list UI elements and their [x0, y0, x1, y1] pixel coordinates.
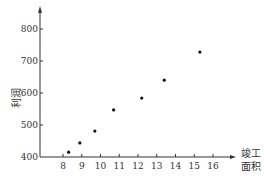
x-tick-label: 11: [114, 161, 125, 171]
y-tick-label: 700: [21, 56, 38, 66]
y-tick-label: 800: [21, 24, 38, 34]
axes: [38, 6, 236, 159]
x-axis-arrow-icon: [230, 155, 236, 159]
x-tick-label: 8: [60, 161, 66, 171]
x-tick-label: 16: [207, 161, 219, 171]
x-axis-label-line1: 竣工: [241, 147, 261, 159]
x-tick-label: 15: [189, 161, 201, 171]
x-tick-label: 10: [95, 161, 107, 171]
data-point: [112, 108, 115, 111]
data-point: [93, 129, 96, 132]
y-tick-label: 600: [21, 88, 38, 98]
data-point: [140, 97, 143, 100]
y-tick-label: 500: [21, 120, 38, 130]
data-point: [163, 79, 166, 82]
y-tick-label: 400: [21, 152, 38, 162]
y-axis-label: 利润: [10, 88, 22, 108]
data-point: [78, 141, 81, 144]
scatter-chart: 8910111213141516 400500600700800 利润 竣工 面…: [0, 0, 264, 188]
x-tick-label: 14: [170, 161, 182, 171]
y-axis-arrow-icon: [38, 6, 42, 13]
x-tick-label: 12: [132, 161, 143, 171]
data-point: [67, 151, 70, 154]
x-tick-label: 13: [151, 161, 163, 171]
x-axis-label-line2: 面积: [241, 161, 261, 172]
x-tick-label: 9: [79, 161, 85, 171]
data-points: [67, 50, 201, 153]
data-point: [198, 50, 201, 53]
